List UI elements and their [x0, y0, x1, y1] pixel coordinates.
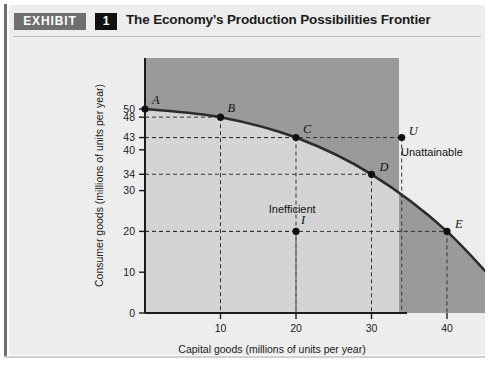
exhibit-tag-label: EXHIBIT	[14, 13, 86, 30]
y-tick-label-20: 20	[123, 225, 135, 237]
point-label-b: B	[228, 101, 236, 115]
point-label-c: C	[303, 122, 312, 136]
data-point-d	[368, 171, 375, 178]
exhibit-header: EXHIBIT 1 The Economy’s Production Possi…	[9, 5, 485, 37]
x-axis-title: Capital goods (millions of units per yea…	[178, 343, 365, 355]
y-tick-label-50: 50	[123, 103, 135, 115]
exhibit-title: The Economy’s Production Possibilities F…	[126, 12, 431, 27]
point-label-d: D	[379, 160, 389, 174]
x-tick-label-20: 20	[290, 322, 302, 334]
x-tick-label-10: 10	[215, 322, 227, 334]
bottom-rule-divider	[4, 356, 485, 358]
point-label-u: U	[409, 124, 419, 138]
exhibit-body: EXHIBIT 1 The Economy’s Production Possi…	[9, 5, 485, 355]
x-tick-label-40: 40	[441, 322, 453, 334]
data-point-e	[443, 228, 450, 235]
y-tick-label-0: 0	[129, 307, 135, 319]
data-point-b	[217, 114, 224, 121]
y-tick-label-40: 40	[123, 144, 135, 156]
point-label-i: I	[300, 213, 306, 227]
exhibit-number-badge: 1	[95, 13, 117, 30]
data-point-c	[292, 134, 299, 141]
x-tick-label-30: 30	[366, 322, 378, 334]
y-tick-label-10: 10	[123, 266, 135, 278]
exhibit-card: EXHIBIT 1 The Economy’s Production Possi…	[0, 0, 491, 374]
region-label-unattainable: Unattainable	[401, 146, 463, 158]
region-label-inefficient: Inefficient	[269, 203, 316, 215]
y-tick-label-30: 30	[123, 184, 135, 196]
y-axis-title: Consumer goods (millions of units per ye…	[93, 84, 105, 287]
left-rule-divider	[4, 4, 7, 356]
y-tick-label-34: 34	[123, 168, 135, 180]
point-label-e: E	[454, 217, 463, 231]
data-point-i	[292, 228, 299, 235]
data-point-u	[398, 134, 405, 141]
production-possibilities-chart: 010203034404348501020304050ABCDEFIUUnatt…	[9, 37, 485, 355]
point-label-a: A	[151, 93, 160, 107]
y-tick-label-43: 43	[123, 131, 135, 143]
chart-svg: 010203034404348501020304050ABCDEFIUUnatt…	[9, 37, 485, 355]
data-point-a	[141, 105, 148, 112]
